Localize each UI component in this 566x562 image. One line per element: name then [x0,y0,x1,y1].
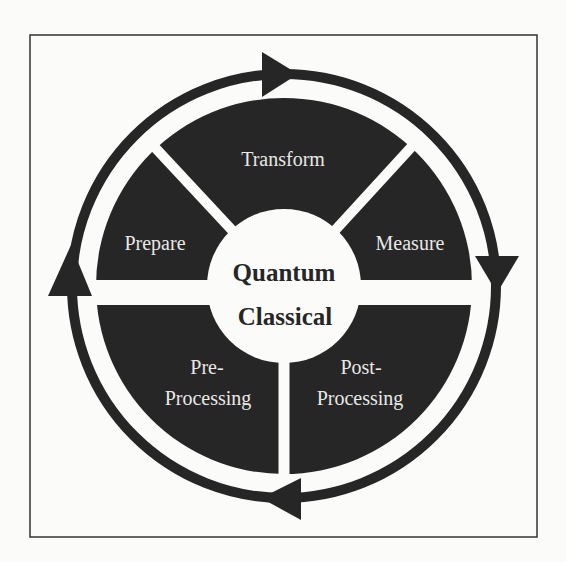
segment-label-prepare: Prepare [124,232,185,255]
segment-label-pre-line1: Pre- [190,356,223,378]
arrow-top-icon [262,52,298,97]
center-circle [207,209,361,363]
arrow-left-icon [48,245,92,296]
quantum-classical-cycle-diagram: Transform Measure Prepare Pre- Processin… [0,0,566,562]
segment-label-post-line2: Processing [317,387,404,410]
segment-label-post-line1: Post- [340,356,381,378]
center-label-classical: Classical [238,303,333,330]
segment-label-transform: Transform [241,148,325,170]
center-label-quantum: Quantum [233,259,336,286]
arrow-right-icon [475,256,519,293]
arrow-bottom-icon [261,478,301,520]
segment-label-pre-line2: Processing [165,387,252,410]
segment-label-measure: Measure [376,232,445,254]
